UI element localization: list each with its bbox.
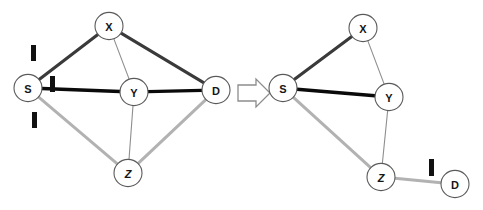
after-edge-s-z xyxy=(293,97,370,167)
after-node-label-d: D xyxy=(451,179,459,191)
after-node-label-z: Z xyxy=(377,172,386,184)
after-edge-z-d xyxy=(395,178,441,182)
after-graph-ticks xyxy=(429,159,434,176)
before-node-label-y: Y xyxy=(130,87,138,99)
before-edge-y-d xyxy=(148,90,202,91)
before-node-s: S xyxy=(14,74,42,101)
after-node-y: Y xyxy=(375,83,403,110)
graph-transformation-figure: SXYDZ SXYZD xyxy=(0,0,483,210)
after-graph-edges xyxy=(293,36,441,182)
after-node-d: D xyxy=(441,170,469,197)
after-edge-x-y xyxy=(368,41,384,84)
before-edge-s-z xyxy=(39,97,118,164)
after-graph-nodes: SXYZD xyxy=(269,14,469,197)
before-node-label-z: Z xyxy=(124,168,133,180)
before-edge-x-y xyxy=(114,39,129,79)
before-node-label-x: X xyxy=(105,21,113,33)
before-edge-s-x xyxy=(39,35,98,80)
after-node-x: X xyxy=(349,14,377,41)
after-edge-y-z xyxy=(382,111,387,163)
tick-on-edge-s-z xyxy=(32,112,37,128)
after-node-z: Z xyxy=(367,163,395,190)
before-graph-nodes: SXYDZ xyxy=(14,12,230,186)
after-edge-s-y xyxy=(297,89,375,96)
after-node-s: S xyxy=(269,74,297,101)
before-node-label-s: S xyxy=(24,83,31,95)
after-node-label-x: X xyxy=(359,23,367,35)
before-node-y: Y xyxy=(120,78,148,105)
before-node-label-d: D xyxy=(212,85,220,97)
right-arrow-icon xyxy=(238,79,270,107)
tick-on-edge-s-x xyxy=(31,45,36,61)
before-edge-x-d xyxy=(121,33,204,83)
tick-on-edge-s-y xyxy=(50,76,55,92)
after-node-label-y: Y xyxy=(385,92,393,104)
after-node-label-s: S xyxy=(279,83,286,95)
before-node-d: D xyxy=(202,76,230,103)
after-edge-s-x xyxy=(294,36,352,79)
before-edge-z-d xyxy=(138,100,206,164)
before-edge-y-z xyxy=(129,106,133,159)
before-node-z: Z xyxy=(114,159,142,186)
tick-on-edge-z-d xyxy=(429,159,434,176)
transition-arrow-group xyxy=(238,79,270,107)
before-node-x: X xyxy=(95,12,123,39)
